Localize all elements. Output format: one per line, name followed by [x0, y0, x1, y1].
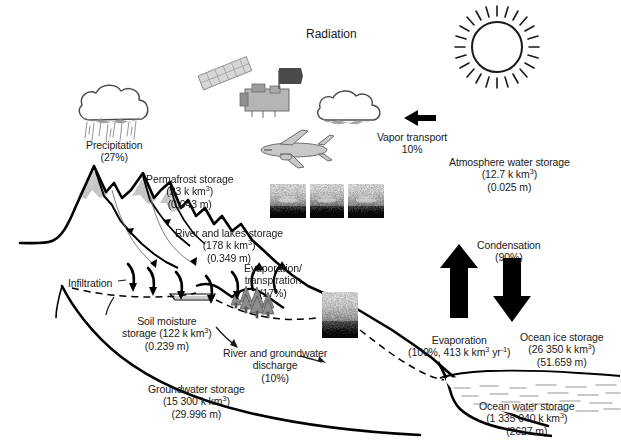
label-condensation-line-0: Condensation — [477, 239, 541, 251]
label-precipitation-line-1: (27%) — [86, 151, 142, 163]
infiltration-leader — [118, 280, 126, 281]
label-groundwater-storage-line-2: (29.996 m) — [148, 408, 245, 420]
label-river-and-groundwater-discharge: River and groundwaterdischarge(10%) — [223, 347, 327, 384]
photo-inset-landscape — [322, 292, 358, 338]
photo-inset-aircraft-3 — [348, 184, 384, 218]
label-permafrost-storage: Permafrost storage(23 k km3)(0.043 m) — [146, 173, 234, 210]
label-vapor-transport: Vapor transport10% — [377, 131, 447, 156]
soil-moisture-pointer — [106, 297, 114, 315]
label-permafrost-storage-line-1: (23 k km3) — [146, 185, 234, 197]
cloud-icon — [318, 91, 380, 124]
label-soil-moisture-storage: Soil moisturestorage (122 k km3)(0.239 m… — [122, 315, 212, 352]
label-soil-moisture-storage-line-2: (0.239 m) — [122, 340, 212, 352]
label-groundwater-storage-line-1: (15 300 k km3) — [148, 395, 245, 407]
label-precipitation-line-0: Precipitation — [86, 139, 142, 151]
label-infiltration: Infiltration — [68, 277, 112, 289]
discharge-arrow-left — [216, 327, 238, 348]
label-condensation: Condensation(90%) — [477, 239, 541, 264]
photo-inset-aircraft-1 — [270, 184, 306, 218]
label-precipitation: Precipitation(27%) — [86, 139, 142, 164]
label-groundwater-storage: Groundwater storage(15 300 k km3)(29.996… — [148, 383, 245, 420]
rain-cloud-icon — [79, 85, 147, 142]
satellite-icon — [198, 57, 303, 118]
label-soil-moisture-storage-line-1: storage (122 k km3) — [122, 327, 212, 339]
label-river-and-lakes-storage-line-1: (178 k km3) — [175, 239, 283, 251]
label-vapor-transport-line-1: 10% — [377, 143, 447, 155]
label-river-and-lakes-storage-line-0: River and lakes storage — [175, 227, 283, 239]
left-arrow-icon — [404, 110, 436, 126]
label-river-and-groundwater-discharge-line-1: discharge — [223, 359, 327, 371]
down-arrow-icon — [493, 258, 531, 322]
label-permafrost-storage-line-2: (0.043 m) — [146, 198, 234, 210]
label-river-and-lakes-storage: River and lakes storage(178 k km3)(0.349… — [175, 227, 283, 264]
label-evaporation-transpiration-line-0: Evaporation/ — [244, 262, 302, 274]
label-ocean-ice-storage: Ocean ice storage(26 350 k km3)(51.659 m… — [520, 331, 604, 368]
figure-title: Radiation — [306, 27, 357, 41]
label-evaporation-line-1: (100%, 413 k km3 yr-1) — [408, 346, 510, 358]
label-vapor-transport-line-0: Vapor transport — [377, 131, 447, 143]
label-groundwater-storage-line-0: Groundwater storage — [148, 383, 245, 395]
label-evaporation-transpiration: Evaporation/transpiration(17%) — [244, 262, 302, 299]
up-arrow-icon — [440, 244, 478, 318]
label-evaporation-transpiration-line-1: transpiration — [244, 274, 302, 286]
sun-icon — [455, 6, 539, 88]
label-atmosphere-water-storage-line-2: (0.025 m) — [449, 181, 570, 193]
label-ocean-ice-storage-line-2: (51.659 m) — [520, 356, 604, 368]
label-ocean-water-storage: Ocean water storage(1 335 040 k km3)(262… — [479, 400, 575, 437]
label-infiltration-line-0: Infiltration — [68, 277, 112, 289]
label-evaporation-line-0: Evaporation — [408, 334, 510, 346]
label-condensation-line-1: (90%) — [477, 251, 541, 263]
label-atmosphere-water-storage-line-0: Atmosphere water storage — [449, 156, 570, 168]
label-ocean-water-storage-line-2: (2627 m) — [479, 425, 575, 437]
label-permafrost-storage-line-0: Permafrost storage — [146, 173, 234, 185]
aircraft-icon — [261, 130, 334, 168]
label-evaporation: Evaporation(100%, 413 k km3 yr-1) — [408, 334, 510, 359]
photo-inset-aircraft-2 — [310, 184, 344, 218]
label-evaporation-transpiration-line-2: (17%) — [244, 287, 302, 299]
label-ocean-water-storage-line-1: (1 335 040 k km3) — [479, 412, 575, 424]
label-soil-moisture-storage-line-0: Soil moisture — [122, 315, 212, 327]
label-atmosphere-water-storage-line-1: (12.7 k km3) — [449, 168, 570, 180]
water-cycle-figure: Radiation Precipitation(27%)Permafrost s… — [0, 0, 621, 441]
label-river-and-groundwater-discharge-line-0: River and groundwater — [223, 347, 327, 359]
label-ocean-ice-storage-line-1: (26 350 k km3) — [520, 343, 604, 355]
label-atmosphere-water-storage: Atmosphere water storage(12.7 k km3)(0.0… — [449, 156, 570, 193]
